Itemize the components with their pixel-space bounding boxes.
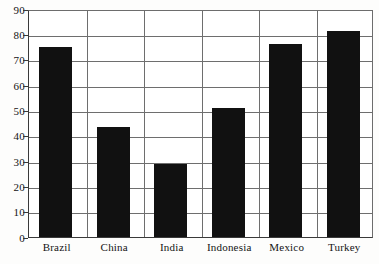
gridline	[29, 213, 372, 214]
gridline	[29, 87, 372, 88]
category-separator	[317, 11, 318, 237]
bar	[212, 108, 245, 237]
bar	[39, 47, 72, 237]
category-separator	[259, 11, 260, 237]
category-separator	[144, 11, 145, 237]
gridline	[29, 188, 372, 189]
bar	[327, 31, 360, 237]
gridline	[29, 112, 372, 113]
x-axis-tick-label: China	[86, 241, 144, 254]
x-axis-tick-label: India	[143, 241, 201, 254]
gridline	[29, 137, 372, 138]
x-axis-tick-label: Turkey	[316, 241, 374, 254]
x-axis-tick-label: Mexico	[258, 241, 316, 254]
gridline	[29, 163, 372, 164]
x-axis-tick-label: Brazil	[28, 241, 86, 254]
plot-area	[28, 10, 373, 238]
x-axis-tick-labels: BrazilChinaIndiaIndonesiaMexicoTurkey	[28, 241, 373, 261]
bar-chart: 0102030405060708090 BrazilChinaIndiaIndo…	[0, 0, 379, 264]
bar	[154, 164, 187, 237]
y-axis-tick-marks	[0, 10, 28, 238]
gridline	[29, 36, 372, 37]
gridline	[29, 61, 372, 62]
category-separator	[202, 11, 203, 237]
bar	[269, 44, 302, 237]
x-axis-tick-label: Indonesia	[201, 241, 259, 254]
bar	[97, 127, 130, 237]
category-separator	[87, 11, 88, 237]
